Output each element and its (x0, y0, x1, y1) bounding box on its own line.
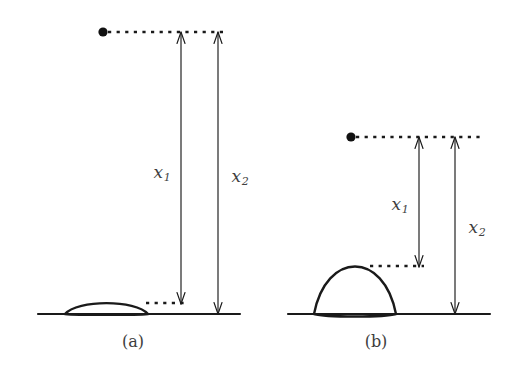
panel-b-droplet-outline (314, 266, 396, 316)
panel-a-arrow-x1 (177, 32, 185, 304)
panel-a-caption: (a) (122, 332, 144, 351)
panel-a (38, 27, 240, 315)
panel-a-label-x2: x2 (232, 166, 249, 186)
panel-b-label-x1: x1 (392, 194, 409, 214)
diagram-canvas (0, 0, 514, 369)
panel-a-arrow-x2 (214, 32, 222, 314)
panel-b-caption: (b) (365, 332, 388, 351)
panel-b-source-dot (346, 132, 355, 141)
panel-b-arrow-x2 (451, 137, 459, 314)
panel-b (288, 132, 490, 316)
panel-a-label-x1: x1 (154, 162, 171, 182)
panel-b-arrow-x1 (415, 137, 423, 267)
panel-a-source-dot (98, 27, 107, 36)
figure-root: x1 x2 x1 x2 (a) (b) (0, 0, 514, 369)
panel-b-label-x2: x2 (469, 217, 486, 237)
